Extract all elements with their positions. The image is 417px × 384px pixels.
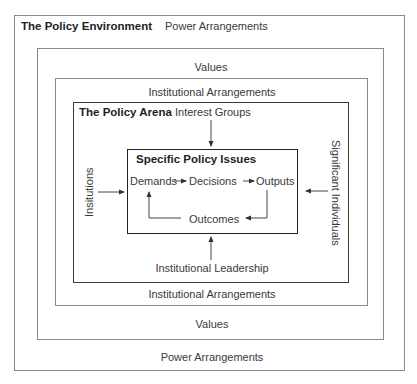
arrows-layer [0,0,417,384]
arrow-outputs-outcomes-icon [246,190,267,218]
arrow-outcomes-demands-icon [149,192,181,218]
